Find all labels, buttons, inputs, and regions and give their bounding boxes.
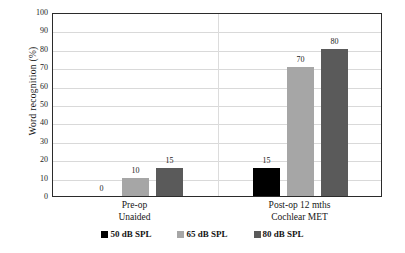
legend-label: 65 dB SPL — [186, 230, 227, 239]
bar-value-label: 15 — [166, 157, 174, 165]
y-tick-label: 50 — [20, 101, 48, 109]
y-tick-label: 0 — [20, 193, 48, 201]
legend-item[interactable]: 65 dB SPL — [177, 230, 227, 239]
bar-value-label: 80 — [331, 38, 339, 46]
category-label-line: Unaided — [118, 212, 150, 224]
y-axis-tick-labels: 1009080706050403020100 — [20, 13, 48, 197]
bar-value-label: 15 — [262, 157, 270, 165]
bar — [156, 168, 183, 196]
y-tick-label: 100 — [20, 9, 48, 17]
legend-label: 50 dB SPL — [110, 230, 151, 239]
chart-legend: 50 dB SPL65 dB SPL80 dB SPL — [0, 230, 405, 239]
bar-value-label: 0 — [99, 185, 103, 193]
bar-chart: Word recognition (%) 1009080706050403020… — [0, 0, 405, 253]
legend-label: 80 dB SPL — [263, 230, 304, 239]
bars-layer: 01015157080 — [53, 14, 381, 196]
y-tick-label: 10 — [20, 175, 48, 183]
category-label-line: Cochlear MET — [269, 212, 331, 224]
legend-swatch-icon — [101, 231, 108, 238]
y-tick-label: 60 — [20, 83, 48, 91]
bar — [253, 168, 280, 196]
y-tick-label: 30 — [20, 138, 48, 146]
category-label-line: Post-op 12 mths — [269, 200, 331, 212]
y-tick-label: 70 — [20, 64, 48, 72]
y-tick-label: 20 — [20, 156, 48, 164]
category-label-line: Pre-op — [118, 200, 150, 212]
category-label: Post-op 12 mthsCochlear MET — [269, 200, 331, 223]
y-tick-label: 90 — [20, 27, 48, 35]
legend-swatch-icon — [177, 231, 184, 238]
bar-value-label: 70 — [297, 56, 305, 64]
bar-value-label: 10 — [132, 167, 140, 175]
legend-item[interactable]: 80 dB SPL — [254, 230, 304, 239]
bar — [287, 67, 314, 196]
plot-area: 01015157080 — [52, 13, 382, 197]
legend-swatch-icon — [254, 231, 261, 238]
legend-item[interactable]: 50 dB SPL — [101, 230, 151, 239]
y-tick-label: 40 — [20, 119, 48, 127]
category-label: Pre-opUnaided — [118, 200, 150, 223]
y-tick-label: 80 — [20, 46, 48, 54]
bar — [321, 49, 348, 196]
x-axis-category-labels: Pre-opUnaidedPost-op 12 mthsCochlear MET — [52, 200, 382, 230]
bar — [122, 178, 149, 196]
